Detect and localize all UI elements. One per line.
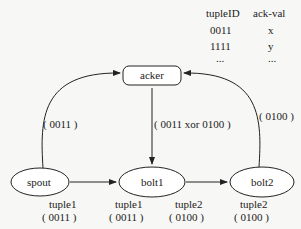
table-header-ackval: ack-val bbox=[253, 7, 285, 19]
edge-label-spout-acker: ( 0011 ) bbox=[43, 118, 77, 130]
edge-label-bolt2-acker: ( 0100 ) bbox=[259, 110, 294, 122]
tuple-id: ( 0100 ) bbox=[169, 211, 204, 223]
tuple-id: ( 0100 ) bbox=[234, 211, 269, 223]
tuple-id: ( 0011 ) bbox=[109, 211, 143, 223]
tuple-id: ( 0011 ) bbox=[42, 211, 76, 223]
spout-label: spout bbox=[27, 176, 51, 188]
table-cell: x bbox=[268, 24, 274, 36]
tuple-name: tuple1 bbox=[49, 198, 77, 210]
table-cell: ... bbox=[216, 52, 224, 64]
tuple-name: tuple2 bbox=[175, 198, 203, 210]
table-cell: 1111 bbox=[210, 40, 231, 52]
edge-label-acker-bolt1: ( 0011 xor 0100 ) bbox=[154, 118, 231, 130]
bolt1-label: bolt1 bbox=[141, 176, 164, 188]
diagram-canvas bbox=[0, 0, 301, 229]
table-cell: y bbox=[268, 40, 274, 52]
tuple-name: tuple1 bbox=[115, 198, 143, 210]
tuple-name: tuple2 bbox=[240, 198, 268, 210]
table-cell: 0011 bbox=[210, 24, 232, 36]
table-header-tupleid: tupleID bbox=[206, 7, 240, 19]
acker-label: acker bbox=[140, 69, 164, 81]
bolt2-label: bolt2 bbox=[251, 176, 274, 188]
table-cell: ... bbox=[268, 52, 276, 64]
